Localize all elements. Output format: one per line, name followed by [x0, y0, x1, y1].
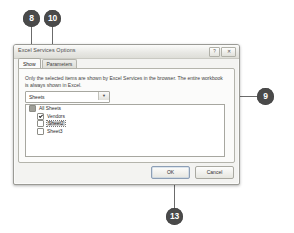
list-item[interactable]: All Sheets: [26, 105, 224, 113]
callout-10: 10: [44, 10, 61, 27]
checkbox-icon[interactable]: [37, 128, 44, 135]
callout-9: 9: [257, 88, 274, 105]
list-item-label: Vendors: [47, 114, 65, 119]
dialog-titlebar: Excel Services Options ? ✕: [14, 45, 239, 59]
figure-canvas: 8 10 9 13 Excel Services Options ? ✕ Sho…: [0, 0, 294, 233]
show-tab-panel: Only the selected items are shown by Exc…: [18, 68, 235, 163]
close-icon[interactable]: ✕: [221, 47, 236, 57]
cancel-button[interactable]: Cancel: [195, 166, 234, 179]
excel-services-options-dialog: Excel Services Options ? ✕ Show Paramete…: [13, 44, 240, 185]
chevron-down-icon[interactable]: ▼: [98, 92, 109, 100]
item-type-dropdown-value: Sheets: [29, 93, 45, 101]
sheet-listbox[interactable]: All Sheets Vendors Sheet2 Sheet3: [25, 104, 225, 157]
item-type-dropdown[interactable]: Sheets ▼: [25, 91, 110, 103]
checkbox-icon[interactable]: [29, 105, 36, 112]
ok-button[interactable]: OK: [151, 166, 190, 179]
dialog-button-row: OK Cancel: [151, 166, 234, 179]
list-item-label: Sheet3: [47, 129, 63, 134]
dialog-title: Excel Services Options: [18, 47, 76, 53]
checkbox-icon[interactable]: [37, 113, 44, 120]
list-item[interactable]: Sheet3: [26, 128, 224, 136]
window-controls: ? ✕: [209, 47, 236, 57]
list-item[interactable]: Vendors: [26, 113, 224, 121]
checkbox-icon[interactable]: [37, 120, 44, 127]
help-text: Only the selected items are shown by Exc…: [25, 75, 223, 89]
callout-8: 8: [23, 10, 40, 27]
list-item-label: All Sheets: [39, 106, 61, 111]
help-icon[interactable]: ?: [209, 47, 220, 57]
list-item[interactable]: Sheet2: [26, 120, 224, 128]
callout-13: 13: [166, 208, 183, 225]
list-item-label: Sheet2: [47, 121, 65, 126]
